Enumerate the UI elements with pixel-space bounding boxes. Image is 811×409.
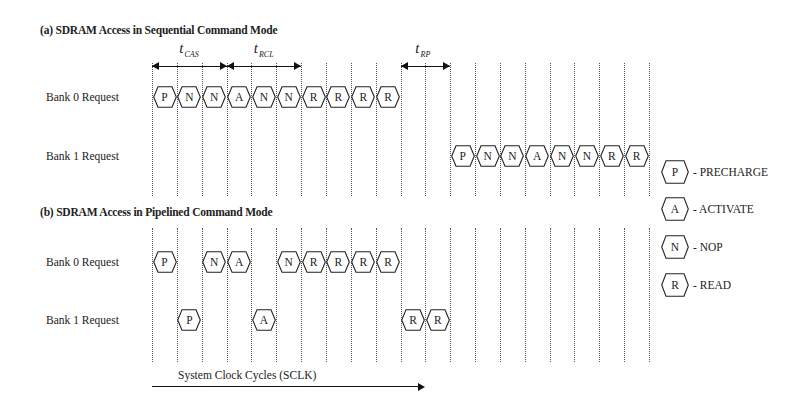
- clock-cycle-line: [177, 63, 178, 196]
- command-r: R: [401, 309, 425, 331]
- clock-cycle-line: [202, 228, 203, 362]
- clock-cycle-line: [574, 63, 575, 196]
- command-n: N: [202, 251, 226, 273]
- clock-cycle-line: [574, 228, 575, 362]
- command-r: R: [376, 251, 400, 273]
- clock-cycle-line: [500, 228, 501, 362]
- clock-cycle-line: [450, 228, 451, 362]
- clock-cycle-line: [624, 228, 625, 362]
- clock-cycle-line: [376, 228, 377, 362]
- legend-item-p: P- PRECHARGE: [661, 160, 768, 184]
- command-a: A: [227, 251, 251, 273]
- legend-meaning: - READ: [693, 279, 731, 291]
- timing-label-cas: tCAS: [179, 40, 198, 59]
- clock-cycle-line: [152, 228, 153, 362]
- clock-cycle-line: [599, 228, 600, 362]
- section-b-bank1-label: Bank 1 Request: [46, 314, 119, 326]
- clock-cycle-line: [326, 63, 327, 196]
- clock-cycle-line: [376, 63, 377, 196]
- clock-cycle-line: [475, 63, 476, 196]
- command-p: P: [451, 145, 475, 167]
- clock-cycle-line: [649, 228, 650, 362]
- command-r: R: [302, 251, 326, 273]
- clock-cycle-line: [401, 228, 402, 362]
- clock-cycle-line: [152, 63, 153, 196]
- clock-cycle-line: [251, 228, 252, 362]
- clock-cycle-line: [500, 63, 501, 196]
- legend-meaning: - PRECHARGE: [693, 166, 768, 178]
- time-axis-arrow: [152, 383, 425, 391]
- command-r: R: [351, 86, 375, 108]
- command-r: R: [302, 86, 326, 108]
- clock-cycle-line: [624, 63, 625, 196]
- command-r: R: [326, 251, 350, 273]
- command-n: N: [277, 251, 301, 273]
- axis-label: System Clock Cycles (SCLK): [178, 369, 316, 381]
- command-r: R: [426, 309, 450, 331]
- clock-cycle-line: [525, 63, 526, 196]
- timing-arrow-rcl: [227, 62, 302, 72]
- section-a-title: (a) SDRAM Access in Sequential Command M…: [40, 24, 277, 36]
- timing-label-rp: tRP: [415, 40, 430, 59]
- legend-item-r: R- READ: [661, 273, 731, 297]
- legend-hexagon-icon: P: [661, 160, 689, 184]
- section-a-bank1-label: Bank 1 Request: [46, 150, 119, 162]
- clock-cycle-line: [525, 228, 526, 362]
- command-p: P: [177, 309, 201, 331]
- arrow-head-icon: [418, 383, 425, 391]
- timing-arrow-cas: [152, 62, 227, 72]
- command-n: N: [252, 86, 276, 108]
- legend-hexagon-icon: N: [661, 235, 689, 259]
- command-n: N: [277, 86, 301, 108]
- clock-cycle-line: [475, 228, 476, 362]
- legend-item-n: N- NOP: [661, 235, 723, 259]
- section-a-bank0-label: Bank 0 Request: [46, 91, 119, 103]
- clock-cycle-line: [326, 228, 327, 362]
- command-r: R: [625, 145, 649, 167]
- clock-cycle-line: [276, 63, 277, 196]
- clock-cycle-line: [599, 63, 600, 196]
- clock-cycle-line: [301, 228, 302, 362]
- clock-cycle-line: [401, 63, 402, 196]
- clock-cycle-line: [227, 228, 228, 362]
- command-n: N: [476, 145, 500, 167]
- command-r: R: [351, 251, 375, 273]
- command-n: N: [575, 145, 599, 167]
- section-b-title: (b) SDRAM Access in Pipelined Command Mo…: [40, 206, 272, 218]
- clock-cycle-line: [177, 228, 178, 362]
- command-r: R: [376, 86, 400, 108]
- command-r: R: [600, 145, 624, 167]
- timing-label-rcl: tRCL: [254, 40, 274, 59]
- legend-hexagon-icon: R: [661, 273, 689, 297]
- command-n: N: [202, 86, 226, 108]
- command-n: N: [550, 145, 574, 167]
- clock-cycle-line: [425, 63, 426, 196]
- clock-cycle-line: [227, 63, 228, 196]
- clock-cycle-line: [550, 228, 551, 362]
- clock-cycle-line: [649, 63, 650, 196]
- clock-cycle-line: [351, 228, 352, 362]
- command-a: A: [525, 145, 549, 167]
- legend-meaning: - ACTIVATE: [693, 203, 754, 215]
- clock-cycle-line: [276, 228, 277, 362]
- command-n: N: [500, 145, 524, 167]
- section-b-bank0-label: Bank 0 Request: [46, 256, 119, 268]
- command-r: R: [326, 86, 350, 108]
- command-p: P: [153, 251, 177, 273]
- legend-hexagon-icon: A: [661, 197, 689, 221]
- clock-cycle-line: [450, 63, 451, 196]
- command-a: A: [252, 309, 276, 331]
- clock-cycle-line: [550, 63, 551, 196]
- legend-item-a: A- ACTIVATE: [661, 197, 754, 221]
- clock-cycle-line: [202, 63, 203, 196]
- clock-cycle-line: [425, 228, 426, 362]
- timing-arrow-rp: [401, 62, 451, 72]
- clock-cycle-line: [251, 63, 252, 196]
- legend-meaning: - NOP: [693, 241, 723, 253]
- command-p: P: [153, 86, 177, 108]
- command-a: A: [227, 86, 251, 108]
- clock-cycle-line: [351, 63, 352, 196]
- command-n: N: [177, 86, 201, 108]
- clock-cycle-line: [301, 63, 302, 196]
